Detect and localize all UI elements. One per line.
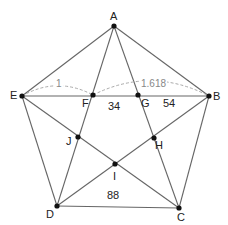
point-label-d: D — [46, 209, 54, 220]
point-label-j: J — [66, 136, 72, 147]
point-label-i: I — [113, 171, 116, 182]
vertex-points — [19, 23, 211, 210]
point-label-h: H — [155, 140, 163, 151]
measure-label-ef: 1 — [55, 79, 63, 89]
point-label-f: F — [82, 98, 89, 109]
segment-value-fg: 34 — [108, 101, 120, 112]
pentagram-diagram: A B C D E F G H I J 34 54 88 1 1.618 — [0, 0, 228, 225]
segment-value-gb: 54 — [163, 98, 175, 109]
measurement-arcs — [22, 81, 209, 96]
point-label-e: E — [10, 90, 17, 101]
point-label-a: A — [110, 11, 117, 22]
point-label-b: B — [213, 91, 220, 102]
measure-label-fb: 1.618 — [140, 79, 167, 89]
point-label-c: C — [177, 212, 185, 223]
segment-value-dc: 88 — [107, 190, 119, 201]
point-label-g: G — [141, 98, 150, 109]
